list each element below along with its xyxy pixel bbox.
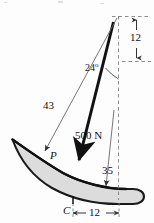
mechanics-figure: 12 24o 43 500 N P 35 C 12: [0, 0, 154, 223]
dim-label-top-12: 12: [130, 32, 141, 43]
degree-symbol: o: [95, 61, 99, 69]
force-label-500n: 500 N: [75, 130, 102, 141]
angle-label-24: 24o: [85, 62, 99, 73]
point-label-p: P: [50, 150, 57, 161]
point-label-c: C: [63, 205, 70, 216]
scan-artifact: [58, 1, 63, 3]
dim-label-bottom-12: 12: [89, 207, 100, 218]
scan-artifact: [100, 3, 104, 4]
angle-arc-24: [106, 68, 119, 79]
angle-value: 24: [85, 62, 95, 73]
dim-label-43: 43: [43, 100, 54, 111]
scan-artifact: [4, 2, 7, 3]
blade-body: [13, 140, 145, 205]
dim-label-35: 35: [102, 165, 113, 176]
